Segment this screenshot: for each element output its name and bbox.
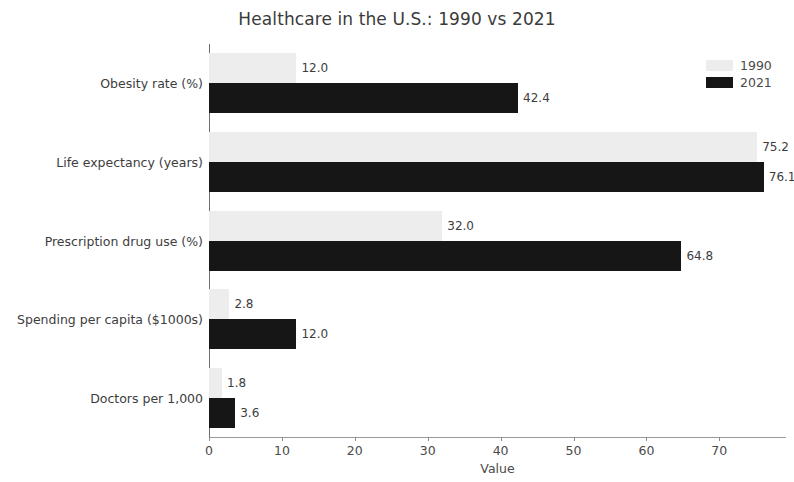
x-axis-tick (646, 437, 647, 441)
legend-label: 2021 (740, 75, 772, 90)
x-axis-tick (574, 437, 575, 441)
bar-1990-1 (209, 132, 757, 162)
bar-2021-3 (209, 319, 296, 349)
x-axis-spine (209, 437, 786, 438)
x-axis-tick (355, 437, 356, 441)
bar-2021-0 (209, 83, 518, 113)
bar-1990-3 (209, 289, 229, 319)
legend-label: 1990 (740, 58, 772, 73)
x-axis-tick-label: 0 (205, 443, 213, 458)
x-axis-tick-label: 50 (566, 443, 582, 458)
x-axis-tick-label: 30 (420, 443, 436, 458)
x-axis-tick-label: 40 (493, 443, 509, 458)
y-axis-category-label: Doctors per 1,000 (0, 390, 203, 405)
bar-value-label: 76.1 (769, 170, 794, 184)
legend-item-2021[interactable]: 2021 (706, 74, 790, 91)
bar-value-label: 1.8 (227, 376, 246, 390)
chart-figure: Healthcare in the U.S.: 1990 vs 2021 010… (0, 0, 794, 482)
bar-1990-4 (209, 368, 222, 398)
x-axis-label: Value (209, 461, 786, 476)
bar-value-label: 42.4 (523, 91, 550, 105)
chart-legend: 19902021 (706, 57, 790, 91)
bar-1990-2 (209, 211, 442, 241)
x-axis-tick (209, 437, 210, 441)
x-axis-tick-label: 10 (274, 443, 290, 458)
x-axis-tick (428, 437, 429, 441)
legend-swatch-icon (706, 77, 733, 88)
x-axis-tick (501, 437, 502, 441)
bar-value-label: 64.8 (686, 249, 713, 263)
bar-1990-0 (209, 53, 296, 83)
x-axis-tick-label: 60 (638, 443, 654, 458)
y-axis-category-label: Obesity rate (%) (0, 76, 203, 91)
y-axis-category-label: Prescription drug use (%) (0, 233, 203, 248)
x-axis-tick (719, 437, 720, 441)
x-axis-tick-label: 20 (347, 443, 363, 458)
bar-2021-1 (209, 162, 764, 192)
chart-title: Healthcare in the U.S.: 1990 vs 2021 (0, 9, 794, 29)
x-axis-tick-label: 70 (711, 443, 727, 458)
bar-value-label: 3.6 (240, 406, 259, 420)
x-axis-tick (282, 437, 283, 441)
bar-2021-2 (209, 241, 681, 271)
legend-item-1990[interactable]: 1990 (706, 57, 790, 74)
y-axis-category-label: Life expectancy (years) (0, 154, 203, 169)
y-axis-category-label: Spending per capita ($1000s) (0, 312, 203, 327)
legend-swatch-icon (706, 60, 733, 71)
bar-value-label: 32.0 (447, 219, 474, 233)
bar-value-label: 75.2 (762, 140, 789, 154)
bar-value-label: 2.8 (234, 297, 253, 311)
bar-2021-4 (209, 398, 235, 428)
bar-value-label: 12.0 (301, 327, 328, 341)
bar-value-label: 12.0 (301, 61, 328, 75)
